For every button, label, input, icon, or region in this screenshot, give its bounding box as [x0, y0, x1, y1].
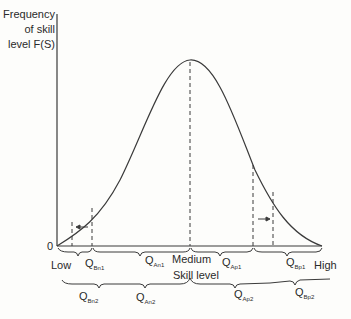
brace-bp1 [254, 248, 322, 256]
label-q-an2: QAn2 [136, 291, 155, 305]
label-q-bn1: QBn1 [85, 257, 104, 271]
label-q-an1: QAn1 [145, 254, 164, 268]
label-q-bp1: QBp1 [286, 256, 305, 270]
y-axis-label: Frequency of skill level F(S) [0, 7, 55, 52]
brace-bn2 [62, 280, 104, 288]
y-label-line-1: Frequency [0, 7, 55, 22]
x-axis-title: Skill level [173, 269, 219, 282]
x-low-label: Low [51, 259, 71, 272]
x-medium-label: Medium [172, 253, 211, 266]
label-q-ap2: QAp2 [234, 288, 253, 302]
y-label-line-2: of skill [0, 22, 55, 37]
y-label-line-3: level F(S) [0, 37, 55, 52]
brace-bp2 [270, 279, 330, 285]
origin-label: 0 [47, 240, 53, 253]
label-q-bp2: QBp2 [295, 286, 314, 300]
label-q-bn2: QBn2 [79, 290, 98, 304]
x-high-label: High [314, 259, 337, 272]
brace-bn1 [58, 248, 92, 256]
label-q-ap1: QAp1 [222, 256, 241, 270]
right-arrow-icon [258, 217, 270, 221]
